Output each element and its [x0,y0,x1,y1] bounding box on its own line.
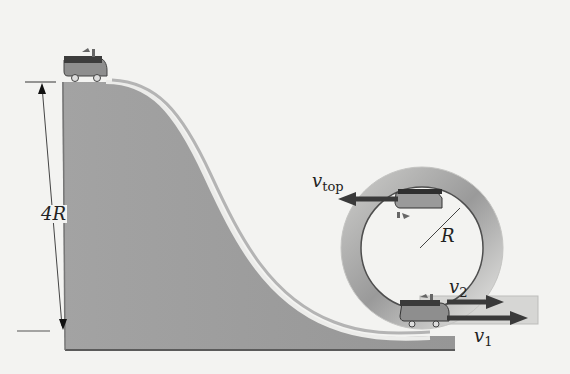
height-label-text: 4R [41,203,66,224]
v1-label: v1 [474,327,492,348]
loop-the-loop-diagram: 4R R vtop v2 v1 [0,0,570,374]
v-top-subscript: top [322,179,343,194]
car-at-loop-top [395,189,442,219]
diagram-canvas [0,0,570,374]
height-dim-arrow-up-icon [38,83,46,94]
v2-label: v2 [449,278,467,299]
v-top-label: vtop [312,172,344,193]
v2-main: v [449,276,459,297]
car-at-start [64,48,107,82]
v1-subscript: 1 [484,334,492,349]
v2-subscript: 2 [459,285,467,300]
v1-main: v [474,325,484,346]
v-top-main: v [312,170,322,191]
radius-label: R [441,227,455,245]
height-label: 4R [40,205,67,223]
radius-label-text: R [441,225,455,246]
